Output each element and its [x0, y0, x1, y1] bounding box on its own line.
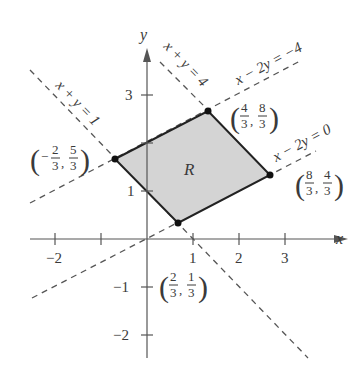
vertex-label-8-3-4-3: ( 8 3 , 4 3 ) [295, 167, 344, 202]
x-tick-label: 2 [235, 250, 243, 266]
y-axis-label: y [138, 26, 148, 44]
svg-text:3: 3 [188, 285, 195, 300]
svg-text:1: 1 [188, 269, 195, 284]
svg-text:2: 2 [170, 269, 177, 284]
y-tick-label: −2 [113, 327, 129, 343]
svg-text:(: ( [295, 168, 305, 202]
svg-text:4: 4 [324, 167, 331, 182]
vertex-point [175, 220, 182, 227]
y-axis-arrow-icon [143, 48, 151, 62]
svg-text:4: 4 [241, 100, 248, 115]
svg-text:3: 3 [324, 183, 331, 198]
svg-text:,: , [250, 113, 253, 128]
svg-text:): ) [334, 168, 344, 202]
svg-text:5: 5 [70, 142, 77, 157]
x-tick-label: −2 [46, 250, 62, 266]
svg-text:8: 8 [306, 167, 313, 182]
svg-text:2: 2 [52, 142, 59, 157]
svg-text:3: 3 [170, 285, 177, 300]
svg-text:−: − [41, 149, 48, 164]
vertex-point [205, 108, 212, 115]
svg-text:): ) [269, 101, 279, 135]
vertex-label-2-3-1-3: ( 2 3 , 1 3 ) [159, 269, 208, 304]
svg-text:3: 3 [306, 183, 313, 198]
svg-text:,: , [61, 155, 64, 170]
label-x-plus-y-eq-4: x + y = 4 [160, 37, 211, 90]
svg-text:3: 3 [52, 158, 59, 173]
x-tick-label: 3 [281, 250, 289, 266]
label-x-plus-y-eq-1: x + y = 1 [52, 76, 103, 128]
region-label: R [183, 160, 195, 179]
svg-text:8: 8 [259, 100, 266, 115]
svg-text:,: , [179, 282, 182, 297]
label-x-minus-2y-eq-neg4: x − 2y = −4 [231, 39, 305, 88]
y-tick-label: 1 [127, 183, 135, 199]
svg-text:): ) [80, 143, 90, 177]
svg-text:(: ( [30, 143, 40, 177]
x-tick-label: 1 [189, 250, 197, 266]
svg-text:(: ( [159, 270, 169, 304]
vertex-point [267, 172, 274, 179]
coordinate-plane: −2 1 2 3 3 1 −1 −2 x y R x + y = 1 x + y… [0, 0, 364, 375]
vertex-point [112, 156, 119, 163]
y-tick-label: −1 [113, 279, 129, 295]
svg-text:(: ( [230, 101, 240, 135]
svg-text:3: 3 [241, 116, 248, 131]
svg-text:3: 3 [70, 158, 77, 173]
svg-text:,: , [315, 180, 318, 195]
y-tick-label: 3 [125, 87, 133, 103]
vertex-label-4-3-8-3: ( 4 3 , 8 3 ) [230, 100, 279, 135]
svg-text:3: 3 [259, 116, 266, 131]
vertex-label-neg2-3-5-3: ( − 2 3 , 5 3 ) [30, 142, 90, 177]
x-axis-label: x [335, 230, 343, 247]
svg-text:): ) [198, 270, 208, 304]
